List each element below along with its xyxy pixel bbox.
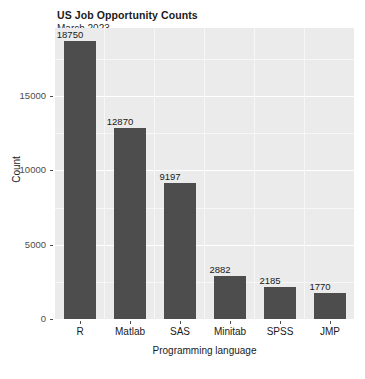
- y-axis-title: Count: [11, 140, 22, 200]
- x-tick-mark: [80, 321, 81, 324]
- x-tick-label-sas: SAS: [155, 326, 205, 338]
- bar-minitab: [214, 276, 246, 319]
- bar-matlab: [114, 128, 146, 319]
- x-tick-label-matlab: Matlab: [105, 326, 155, 338]
- x-tick-label-r: R: [55, 326, 105, 338]
- bar-value-label-sas: 9197: [144, 171, 196, 182]
- y-tick-label-10000: 10000: [2, 165, 46, 175]
- x-tick-label-spss: SPSS: [255, 326, 305, 338]
- bar-value-label-r: 18750: [44, 29, 96, 40]
- y-tick-mark: [50, 245, 53, 246]
- gridline-minor-vertical: [204, 28, 205, 320]
- bar-value-label-spss: 2185: [244, 275, 296, 286]
- gridline-minor-vertical: [104, 28, 105, 320]
- plot-panel: [55, 28, 354, 320]
- bar-jmp: [314, 293, 346, 319]
- y-tick-label-15000: 15000: [2, 91, 46, 101]
- x-tick-mark: [180, 321, 181, 324]
- bar-value-label-jmp: 1770: [294, 281, 346, 292]
- bar-value-label-minitab: 2882: [194, 264, 246, 275]
- bar-r: [64, 41, 96, 319]
- x-tick-mark: [330, 321, 331, 324]
- x-tick-mark: [280, 321, 281, 324]
- x-axis-title: Programming language: [55, 345, 354, 356]
- bar-spss: [264, 287, 296, 319]
- y-tick-mark: [50, 170, 53, 171]
- gridline-minor-vertical: [304, 28, 305, 320]
- y-tick-label-0: 0: [2, 314, 46, 324]
- x-tick-label-minitab: Minitab: [205, 326, 255, 338]
- y-tick-mark: [50, 319, 53, 320]
- bar-chart: US Job Opportunity Counts March 2023 187…: [0, 0, 365, 379]
- x-tick-label-jmp: JMP: [305, 326, 355, 338]
- x-tick-mark: [230, 321, 231, 324]
- y-tick-mark: [50, 96, 53, 97]
- bar-value-label-matlab: 12870: [94, 116, 146, 127]
- y-tick-label-5000: 5000: [2, 240, 46, 250]
- page-title: US Job Opportunity Counts: [57, 9, 357, 22]
- x-tick-mark: [130, 321, 131, 324]
- bar-sas: [164, 183, 196, 319]
